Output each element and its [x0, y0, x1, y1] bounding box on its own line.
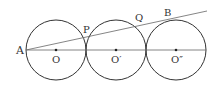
tangent-line-ab	[26, 11, 207, 50]
label-p: P	[83, 24, 90, 35]
label-b: B	[164, 7, 171, 18]
geometry-diagram: A P Q B O O′ O″	[0, 0, 224, 92]
label-o: O	[52, 54, 60, 65]
center-point-o-prime	[115, 49, 118, 52]
center-point-o	[55, 49, 58, 52]
label-o-prime: O′	[111, 54, 122, 65]
label-q: Q	[135, 12, 143, 23]
label-o-double-prime: O″	[171, 54, 183, 65]
center-point-o-double-prime	[175, 49, 178, 52]
label-a: A	[15, 44, 25, 57]
